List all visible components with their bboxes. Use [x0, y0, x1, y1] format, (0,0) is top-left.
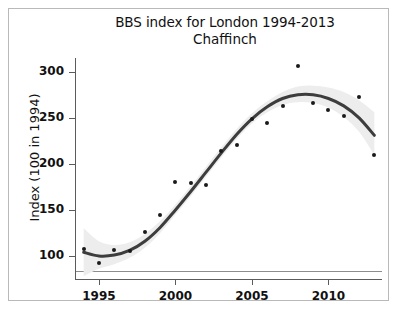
y-tick-label-300: 300 — [24, 64, 64, 78]
reference-line-100 — [76, 271, 382, 272]
x-tick-label-1995: 1995 — [74, 289, 124, 303]
data-point — [143, 230, 147, 234]
x-axis-line — [75, 279, 382, 280]
x-tick-2000 — [175, 279, 176, 285]
data-point — [342, 114, 346, 118]
data-point — [112, 248, 116, 252]
x-tick-2005 — [252, 279, 253, 285]
chart-title: BBS index for London 1994-2013 — [60, 14, 390, 31]
data-point — [250, 117, 254, 121]
chart-figure: BBS index for London 1994-2013 Chaffinch… — [0, 0, 399, 319]
data-point — [128, 249, 132, 253]
y-tick-200 — [69, 164, 75, 165]
figure-frame — [8, 8, 389, 301]
data-point — [357, 95, 361, 99]
y-tick-label-250: 250 — [24, 110, 64, 124]
y-axis-line — [75, 58, 76, 280]
x-tick-label-2010: 2010 — [303, 289, 353, 303]
y-tick-label-200: 200 — [24, 156, 64, 170]
data-point — [281, 104, 285, 108]
y-tick-label-100: 100 — [24, 248, 64, 262]
footer-note — [10, 307, 270, 316]
data-point — [82, 247, 86, 251]
y-tick-100 — [69, 256, 75, 257]
x-tick-2010 — [328, 279, 329, 285]
y-tick-150 — [69, 210, 75, 211]
x-tick-label-2000: 2000 — [150, 289, 200, 303]
data-point — [158, 213, 162, 217]
x-tick-1995 — [99, 279, 100, 285]
x-tick-label-2005: 2005 — [227, 289, 277, 303]
chart-subtitle: Chaffinch — [60, 31, 390, 48]
y-tick-label-150: 150 — [24, 202, 64, 216]
y-tick-250 — [69, 118, 75, 119]
data-point — [189, 181, 193, 185]
y-tick-300 — [69, 72, 75, 73]
